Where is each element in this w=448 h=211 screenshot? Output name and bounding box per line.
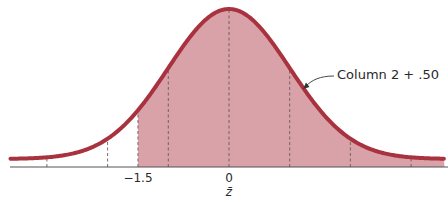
tick-label-0: 0: [225, 171, 233, 185]
normal-curve-chart: [0, 0, 448, 211]
tick-label-neg-1-5: −1.5: [123, 171, 152, 185]
annotation-arrow: [306, 76, 334, 86]
x-axis-label: z̄: [226, 185, 232, 199]
shaded-area: [138, 9, 445, 167]
annotation-label: Column 2 + .50: [337, 67, 439, 82]
